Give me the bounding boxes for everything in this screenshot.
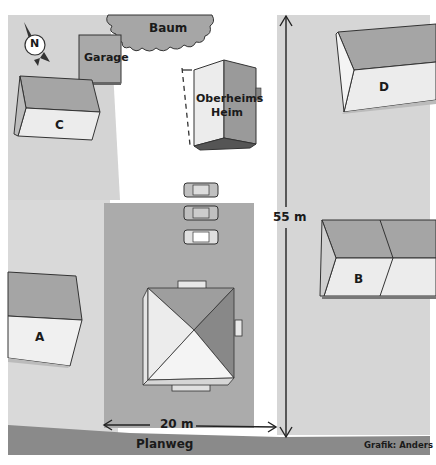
- parked-cars: [184, 183, 218, 244]
- house-a: [8, 272, 82, 368]
- site-plan: Baum N Garage C Oberheims Heim D 55 m B …: [0, 0, 436, 465]
- garage-label: Garage: [84, 51, 129, 64]
- main-house-label-line2: Heim: [211, 106, 243, 119]
- new-house: [143, 281, 242, 391]
- house-b-label: B: [354, 272, 363, 286]
- north-label: N: [30, 37, 39, 50]
- house-b: [320, 220, 436, 299]
- car-icon: [184, 230, 218, 244]
- width-dimension-label: 20 m: [160, 417, 193, 431]
- house-a-label: A: [35, 330, 44, 344]
- main-house-label-line1: Oberheims: [196, 92, 263, 105]
- car-icon: [184, 183, 218, 197]
- house-c-label: C: [55, 118, 64, 132]
- house-d-label: D: [379, 80, 389, 94]
- street-label: Planweg: [136, 437, 193, 451]
- car-icon: [184, 206, 218, 220]
- credit-label: Grafik: Anders: [364, 440, 433, 450]
- height-dimension-label: 55 m: [273, 210, 306, 224]
- main-house: [182, 60, 261, 150]
- tree-label: Baum: [149, 21, 187, 35]
- house-d: [336, 24, 436, 114]
